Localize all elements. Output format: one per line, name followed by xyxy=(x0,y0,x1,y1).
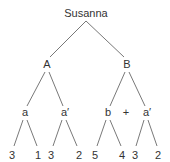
leaf-label: 4 xyxy=(119,149,125,161)
tree-diagram: Susanna A B a a′ b a′ 3 1 3 2 5 4 3 2 + xyxy=(0,0,170,162)
node-A-label: A xyxy=(43,58,51,70)
node-a-prime-right-label: a′ xyxy=(143,106,151,118)
node-a-label: a xyxy=(22,106,29,118)
tree-edge-ap2-l8 xyxy=(148,120,157,146)
tree-edge-a1-l2 xyxy=(27,120,37,146)
leaf-label: 3 xyxy=(48,149,54,161)
root-node-label: Susanna xyxy=(64,7,108,19)
tree-edge-root-A xyxy=(50,21,86,57)
node-B-label: B xyxy=(123,58,130,70)
tree-edge-a1-l1 xyxy=(14,120,23,146)
leaf-label: 2 xyxy=(155,149,161,161)
tree-edge-ap1-l3 xyxy=(53,120,62,146)
tree-edge-A-ap1 xyxy=(49,72,63,106)
node-a-prime-left-label: a′ xyxy=(61,106,69,118)
tree-edge-ap2-l7 xyxy=(136,120,144,146)
tree-edge-b-l5 xyxy=(97,120,106,146)
leaf-label: 1 xyxy=(35,149,41,161)
plus-operator: + xyxy=(123,106,129,118)
tree-edge-B-b xyxy=(110,72,125,106)
tree-edge-B-ap2 xyxy=(129,72,145,106)
leaf-label: 5 xyxy=(92,149,98,161)
tree-edge-A-a1 xyxy=(27,72,45,106)
leaf-label: 3 xyxy=(132,149,138,161)
tree-edge-b-l6 xyxy=(110,120,121,146)
node-b-label: b xyxy=(105,106,111,118)
leaf-label: 2 xyxy=(76,149,82,161)
tree-edge-root-B xyxy=(86,21,124,57)
tree-edges xyxy=(14,21,157,146)
tree-edge-ap1-l4 xyxy=(66,120,77,146)
leaf-label: 3 xyxy=(9,149,15,161)
